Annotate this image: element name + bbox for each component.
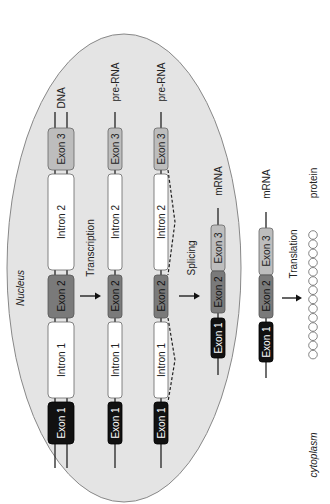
mrna-label-nucleus: mRNA	[213, 166, 224, 196]
transcription-label: Transcription	[85, 219, 96, 276]
svg-text:Exon 1: Exon 1	[56, 407, 67, 439]
svg-text:Exon 3: Exon 3	[213, 232, 224, 264]
svg-text:Intron 1: Intron 1	[110, 343, 121, 377]
splicing-label: Splicing	[186, 240, 197, 275]
svg-text:Intron 2: Intron 2	[110, 205, 121, 239]
cytoplasm-label: cytoplasm	[308, 432, 319, 477]
protein-label: protein	[308, 168, 319, 199]
mrna-row-cytoplasm: Exon 3 Exon 2 Exon 1	[259, 212, 273, 378]
svg-text:Exon 2: Exon 2	[261, 280, 272, 312]
svg-text:Exon 2: Exon 2	[156, 280, 167, 312]
pre-rna-label-1: pre-RNA	[110, 62, 121, 101]
translation-arrow-icon	[282, 295, 302, 302]
mrna-row-nucleus: Exon 3 Exon 2 Exon 1	[211, 208, 225, 375]
svg-text:Exon 3: Exon 3	[261, 235, 272, 267]
pre-rna-label-2: pre-RNA	[156, 62, 167, 101]
svg-text:Exon 3: Exon 3	[56, 133, 67, 165]
svg-text:Intron 1: Intron 1	[156, 343, 167, 377]
mrna-label-cytoplasm: mRNA	[261, 169, 272, 199]
svg-text:Exon 1: Exon 1	[261, 326, 272, 358]
dna-row: Exon 3 Intron 2 Exon 2 Intron 1 Exon 1	[48, 112, 74, 468]
svg-text:Exon 3: Exon 3	[110, 133, 121, 165]
translation-label: Translation	[288, 229, 299, 278]
svg-text:Intron 2: Intron 2	[156, 205, 167, 239]
gene-expression-diagram: Nucleus Exon 3 Intron 2 Exon 2 Intron 1 …	[0, 0, 330, 504]
nucleus-ellipse	[7, 34, 241, 502]
nucleus-label: Nucleus	[15, 270, 26, 306]
dna-label: DNA	[56, 87, 67, 108]
svg-text:Intron 2: Intron 2	[56, 205, 67, 239]
pre-rna-row-1: Exon 3 Intron 2 Exon 2 Intron 1 Exon 1	[108, 112, 122, 468]
svg-text:Exon 1: Exon 1	[156, 407, 167, 439]
svg-text:Exon 3: Exon 3	[156, 133, 167, 165]
protein-chain	[309, 231, 318, 359]
svg-text:Exon 1: Exon 1	[110, 407, 121, 439]
svg-text:Exon 2: Exon 2	[110, 280, 121, 312]
svg-text:Intron 1: Intron 1	[56, 343, 67, 377]
svg-text:Exon 2: Exon 2	[56, 280, 67, 312]
svg-text:Exon 2: Exon 2	[213, 276, 224, 308]
svg-text:Exon 1: Exon 1	[213, 322, 224, 354]
